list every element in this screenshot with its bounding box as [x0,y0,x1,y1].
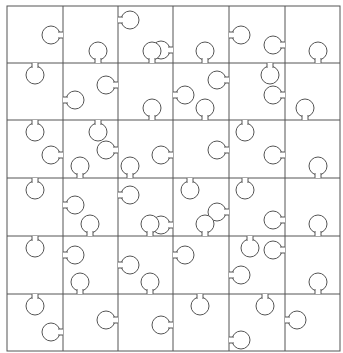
knob-neck-fill [224,147,229,153]
puzzle-knob [42,323,60,341]
knob-neck-fill [113,147,118,153]
knob-neck-fill [187,178,193,183]
knob-neck-fill [32,236,38,241]
knob-neck-fill [247,236,253,241]
puzzle-knob [309,157,327,175]
knob-neck-fill [32,63,38,68]
puzzle-knob [196,99,214,117]
knob-neck-fill [280,152,285,158]
knob-neck-fill [95,58,101,63]
knob-neck-fill [58,329,63,335]
knob-neck-fill [77,289,83,294]
knob-neck-fill [229,337,234,343]
puzzle-knob [66,91,84,109]
knob-neck-fill [168,47,173,53]
puzzle-knob [264,36,282,54]
knob-neck-fill [63,252,68,258]
knob-neck-fill [95,120,101,125]
knob-neck-fill [202,115,208,120]
puzzle-knob [261,66,279,84]
knob-neck-fill [63,97,68,103]
puzzle-knob [152,316,170,334]
knob-neck-fill [224,77,229,83]
puzzle-knob [71,273,89,291]
puzzle-knob [309,273,327,291]
puzzle-knob [143,42,161,60]
puzzle-knob [71,157,89,175]
puzzle-knob [241,239,259,257]
knob-neck-fill [127,173,133,178]
knob-neck-fill [280,247,285,253]
knob-neck-fill [149,58,155,63]
jigsaw-puzzle-board [0,0,343,353]
knob-neck-fill [229,32,234,38]
knob-neck-fill [147,289,153,294]
knob-neck-fill [113,317,118,323]
knob-neck-fill [197,294,203,299]
puzzle-knob [143,99,161,117]
knob-neck-fill [168,322,173,328]
puzzle-knob [121,186,139,204]
knob-neck-fill [315,231,321,236]
puzzle-knob [296,99,314,117]
puzzle-knob [232,331,250,349]
knob-neck-fill [168,152,173,158]
puzzle-knob [121,157,139,175]
knob-neck-fill [267,63,273,68]
puzzle-knob [42,26,60,44]
puzzle-knob [264,241,282,259]
knob-neck-fill [32,178,38,183]
puzzle-knob [264,211,282,229]
puzzle-knob [232,266,250,284]
puzzle-knob [309,42,327,60]
puzzle-knob [66,246,84,264]
knob-neck-fill [302,115,308,120]
puzzle-knob [264,86,282,104]
puzzle-knob [121,256,139,274]
knob-neck-fill [147,231,153,236]
puzzle-knob [121,11,139,29]
knob-neck-fill [285,317,290,323]
puzzle-knob [141,215,159,233]
knob-neck-fill [63,202,68,208]
knob-neck-fill [87,231,93,236]
knob-neck-fill [315,58,321,63]
puzzle-knob [66,196,84,214]
knob-neck-fill [173,252,178,258]
knob-neck-fill [32,120,38,125]
puzzle-knob [97,311,115,329]
puzzle-knob [181,181,199,199]
puzzle-knob [264,146,282,164]
puzzle-knob [236,123,254,141]
puzzle-knob [26,181,44,199]
puzzle-knob [81,215,99,233]
knob-neck-fill [118,192,123,198]
puzzle-knob [176,86,194,104]
puzzle-knob [288,311,306,329]
puzzle-knob [97,141,115,159]
knob-neck-fill [262,294,268,299]
knob-neck-fill [58,152,63,158]
puzzle-knob [89,123,107,141]
puzzle-knob [236,181,254,199]
knob-neck-fill [58,32,63,38]
puzzle-knob [152,146,170,164]
knob-neck-fill [242,178,248,183]
puzzle-knob [191,297,209,315]
knob-neck-fill [168,222,173,228]
knob-neck-fill [280,42,285,48]
puzzle-knob [26,239,44,257]
puzzle-knob [196,42,214,60]
puzzle-knob [208,71,226,89]
knob-neck-fill [149,115,155,120]
puzzle-knob [26,66,44,84]
knob-neck-fill [224,209,229,215]
knob-neck-fill [77,173,83,178]
puzzle-knob [208,141,226,159]
puzzle-knob [256,297,274,315]
puzzle-knob [196,215,214,233]
knob-neck-fill [173,92,178,98]
knob-neck-fill [280,217,285,223]
puzzle-knob [97,76,115,94]
knob-neck-fill [315,289,321,294]
